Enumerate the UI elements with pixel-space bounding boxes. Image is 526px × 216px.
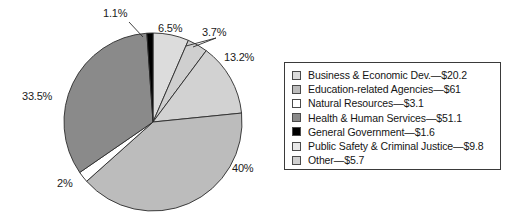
legend-item-label: General Government—$1.6: [308, 126, 435, 138]
legend-swatch-icon: [292, 85, 301, 94]
legend-item-label: Health & Human Services—$51.1: [308, 112, 462, 124]
legend-item[interactable]: Other—$5.7: [292, 153, 500, 167]
pie-chart-figure: 1.1% 6.5% 3.7% 13.2% 40% 2% 33.5% Busine…: [0, 0, 526, 216]
legend-row-list: Business & Economic Dev.—$20.2Education-…: [292, 68, 500, 167]
legend-swatch-icon: [292, 156, 301, 165]
legend-item-label: Public Safety & Criminal Justice—$9.8: [308, 140, 483, 152]
legend-item[interactable]: Public Safety & Criminal Justice—$9.8: [292, 139, 500, 153]
legend-item[interactable]: Health & Human Services—$51.1: [292, 111, 500, 125]
slice-label-13-2: 13.2%: [224, 51, 254, 63]
pie-slice-group: [64, 33, 242, 211]
slice-label-3-7: 3.7%: [202, 26, 226, 38]
legend-item-label: Business & Economic Dev.—$20.2: [308, 69, 467, 81]
legend-item-label: Education-related Agencies—$61: [308, 83, 461, 95]
chart-legend: Business & Economic Dev.—$20.2Education-…: [284, 62, 501, 170]
legend-item[interactable]: Natural Resources—$3.1: [292, 96, 500, 110]
legend-swatch-icon: [292, 71, 301, 80]
legend-item-label: Natural Resources—$3.1: [308, 97, 424, 109]
legend-swatch-icon: [292, 113, 301, 122]
slice-label-1-1: 1.1%: [103, 7, 127, 19]
legend-item[interactable]: Education-related Agencies—$61: [292, 82, 500, 96]
legend-swatch-icon: [292, 142, 301, 151]
legend-item[interactable]: General Government—$1.6: [292, 125, 500, 139]
slice-label-6-5: 6.5%: [158, 22, 182, 34]
legend-swatch-icon: [292, 127, 301, 136]
slice-label-40: 40%: [232, 162, 253, 174]
legend-swatch-icon: [292, 99, 301, 108]
slice-label-2: 2%: [57, 177, 73, 189]
pie-svg: [0, 0, 280, 216]
legend-item[interactable]: Business & Economic Dev.—$20.2: [292, 68, 500, 82]
legend-item-label: Other—$5.7: [308, 154, 364, 166]
slice-label-33-5: 33.5%: [22, 90, 52, 102]
pie-plot-area: 1.1% 6.5% 3.7% 13.2% 40% 2% 33.5%: [0, 0, 280, 216]
